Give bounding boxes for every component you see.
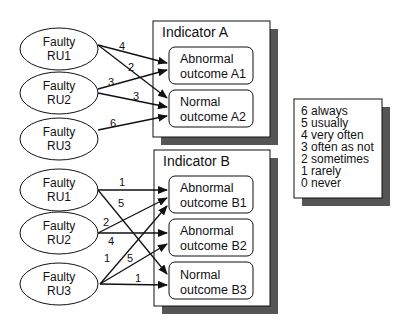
indicator-a-weights: 4 2 3 3 6 xyxy=(108,40,139,129)
indicator-b-title: Indicator B xyxy=(163,153,230,169)
outcome-b3-label-1: Normal xyxy=(180,268,220,282)
faulty-ru2-b-label-2: RU2 xyxy=(47,233,71,247)
faulty-ru2-a-label-1: Faulty xyxy=(43,79,76,93)
weight-ru2-b2: 4 xyxy=(108,235,114,247)
weight-ru3-b1: 1 xyxy=(104,252,110,264)
weight-ru3-b2: 5 xyxy=(127,252,133,264)
weight-ru1-a1: 4 xyxy=(119,40,125,52)
weight-ru1-b1: 1 xyxy=(119,176,125,188)
legend: 6 always 5 usually 4 very often 3 often … xyxy=(294,99,390,206)
outcome-b2-label-2: outcome B2 xyxy=(180,239,247,253)
indicator-a-title: Indicator A xyxy=(162,24,229,40)
outcome-a1-label-2: outcome A1 xyxy=(180,67,246,81)
faulty-ru3-b-label-2: RU3 xyxy=(47,284,71,298)
faulty-ru1-a-label-2: RU1 xyxy=(47,49,71,63)
outcome-a1: Abnormal outcome A1 xyxy=(169,47,253,84)
faulty-ru1-b-label-1: Faulty xyxy=(43,176,76,190)
indicator-a-sources: Faulty RU1 Faulty RU2 Faulty RU3 xyxy=(20,28,98,160)
faulty-ru1-b-label-2: RU1 xyxy=(47,190,71,204)
outcome-b1: Abnormal outcome B1 xyxy=(169,176,253,213)
weight-ru2-b1: 2 xyxy=(103,216,109,228)
outcome-a1-label-1: Abnormal xyxy=(180,52,234,66)
faulty-ru3-a-label-1: Faulty xyxy=(43,125,76,139)
indicator-a-group: Indicator A Abnormal outcome A1 Normal o… xyxy=(153,21,278,145)
outcome-b3-label-2: outcome B3 xyxy=(180,283,247,297)
faulty-ru2-b-label-1: Faulty xyxy=(43,219,76,233)
outcome-a2-label-1: Normal xyxy=(180,95,220,109)
outcome-b2: Abnormal outcome B2 xyxy=(169,219,253,256)
faulty-ru3-b-label-1: Faulty xyxy=(43,270,76,284)
legend-item: 0 never xyxy=(301,176,341,190)
outcome-a2: Normal outcome A2 xyxy=(169,90,253,127)
weight-ru2-a2: 3 xyxy=(133,90,139,102)
weight-ru3-a2: 6 xyxy=(110,117,116,129)
weight-ru1-b3: 5 xyxy=(118,197,124,209)
faulty-ru1-a-label-1: Faulty xyxy=(43,35,76,49)
indicator-b-group: Indicator B Abnormal outcome B1 Abnormal… xyxy=(154,150,278,314)
indicator-b-sources: Faulty RU1 Faulty RU2 Faulty RU3 xyxy=(20,169,98,305)
weight-ru1-a2: 2 xyxy=(128,61,134,73)
weight-ru2-a1: 3 xyxy=(108,76,114,88)
outcome-b1-label-1: Abnormal xyxy=(180,181,234,195)
diagram-canvas: Indicator A Abnormal outcome A1 Normal o… xyxy=(0,0,404,333)
faulty-ru3-a-label-2: RU3 xyxy=(47,139,71,153)
indicator-b-weights: 1 5 2 4 1 5 1 xyxy=(103,176,141,284)
outcome-a2-label-2: outcome A2 xyxy=(180,110,246,124)
outcome-b3: Normal outcome B3 xyxy=(169,262,253,299)
outcome-b1-label-2: outcome B1 xyxy=(180,196,247,210)
weight-ru3-b3: 1 xyxy=(135,272,141,284)
faulty-ru2-a-label-2: RU2 xyxy=(47,93,71,107)
outcome-b2-label-1: Abnormal xyxy=(180,224,234,238)
